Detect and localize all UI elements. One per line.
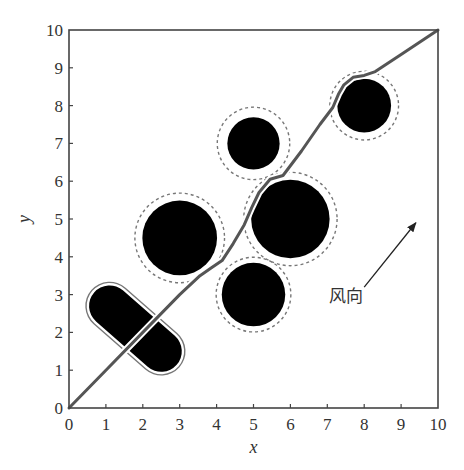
path-planning-chart: 012345678910012345678910 x y 风向 bbox=[0, 0, 464, 470]
y-tick-label: 8 bbox=[55, 97, 64, 116]
x-tick-label: 1 bbox=[102, 415, 111, 434]
x-tick-label: 7 bbox=[323, 415, 332, 434]
y-tick-label: 4 bbox=[55, 248, 64, 267]
wind-direction-arrow-icon bbox=[364, 223, 416, 287]
obstacle-body bbox=[222, 263, 285, 326]
annotations-layer: 风向 bbox=[329, 223, 416, 306]
obstacle-circle bbox=[217, 107, 289, 179]
x-tick-label: 6 bbox=[286, 415, 295, 434]
y-tick-label: 3 bbox=[55, 286, 64, 305]
y-tick-label: 0 bbox=[55, 399, 64, 418]
wind-direction-label: 风向 bbox=[329, 286, 363, 306]
x-tick-label: 3 bbox=[175, 415, 184, 434]
y-tick-label: 2 bbox=[55, 323, 64, 342]
obstacle-body bbox=[227, 117, 279, 169]
x-tick-label: 9 bbox=[397, 415, 406, 434]
y-tick-label: 1 bbox=[55, 361, 64, 380]
x-tick-label: 2 bbox=[139, 415, 148, 434]
y-tick-label: 6 bbox=[55, 172, 64, 191]
y-tick-label: 10 bbox=[46, 21, 63, 40]
obstacle-circle bbox=[244, 172, 337, 265]
y-tick-label: 9 bbox=[55, 59, 64, 78]
x-tick-label: 4 bbox=[212, 415, 221, 434]
x-tick-label: 8 bbox=[360, 415, 369, 434]
obstacle-circle bbox=[216, 257, 291, 332]
x-axis-title: x bbox=[249, 437, 258, 457]
obstacles-layer bbox=[110, 71, 399, 351]
x-tick-label: 10 bbox=[430, 415, 447, 434]
obstacle-body bbox=[142, 201, 217, 276]
y-axis-title: y bbox=[14, 215, 34, 225]
y-tick-label: 7 bbox=[55, 134, 64, 153]
y-tick-label: 5 bbox=[55, 210, 64, 229]
obstacle-circle bbox=[330, 71, 399, 140]
x-tick-label: 5 bbox=[249, 415, 258, 434]
x-tick-label: 0 bbox=[65, 415, 74, 434]
